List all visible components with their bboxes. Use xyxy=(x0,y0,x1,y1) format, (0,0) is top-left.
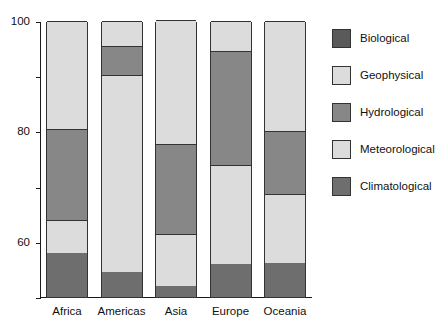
legend-swatch-icon xyxy=(332,177,351,196)
legend-item-meteorological[interactable]: Meteorological xyxy=(332,131,440,168)
bar-segment-climatological[interactable] xyxy=(265,263,305,298)
bar-segment-geophysical[interactable] xyxy=(211,21,251,51)
x-tick-label: Oceania xyxy=(264,306,307,318)
bar-segment-hydrological[interactable] xyxy=(47,129,87,220)
bar-stack xyxy=(210,22,252,298)
bar-stack xyxy=(101,22,143,298)
bar-segment-climatological[interactable] xyxy=(211,264,251,297)
bar-segment-meteorological[interactable] xyxy=(47,220,87,253)
bar-column-africa[interactable]: Africa xyxy=(46,22,88,298)
bar-stack xyxy=(155,22,197,298)
bar-segment-meteorological[interactable] xyxy=(156,234,196,286)
legend-swatch-icon xyxy=(332,66,351,85)
bar-segment-geophysical[interactable] xyxy=(47,21,87,129)
bar-column-asia[interactable]: Asia xyxy=(155,22,197,298)
bar-column-oceania[interactable]: Oceania xyxy=(264,22,306,298)
bar-segment-hydrological[interactable] xyxy=(102,46,142,75)
legend-item-geophysical[interactable]: Geophysical xyxy=(332,57,440,94)
stacked-bar-chart-figure: 020406080100 AfricaAmericasAsiaEuropeOce… xyxy=(0,0,443,336)
bar-segment-climatological[interactable] xyxy=(47,253,87,297)
legend-label: Hydrological xyxy=(360,107,423,119)
legend-label: Meteorological xyxy=(360,144,435,156)
legend-label: Geophysical xyxy=(360,70,423,82)
bar-segment-hydrological[interactable] xyxy=(265,131,305,193)
bar-segment-meteorological[interactable] xyxy=(265,194,305,263)
bar-segment-climatological[interactable] xyxy=(102,272,142,297)
y-tick-label: 60 xyxy=(17,237,30,249)
legend-item-climatological[interactable]: Climatological xyxy=(332,168,440,205)
bar-segment-geophysical[interactable] xyxy=(265,21,305,131)
plot-area: 020406080100 AfricaAmericasAsiaEuropeOce… xyxy=(40,22,310,298)
bar-column-americas[interactable]: Americas xyxy=(101,22,143,298)
x-tick-label: Europe xyxy=(212,306,249,318)
legend-item-hydrological[interactable]: Hydrological xyxy=(332,94,440,131)
y-tick-label: 100 xyxy=(11,16,30,28)
bar-segment-hydrological[interactable] xyxy=(156,144,196,234)
bar-segment-hydrological[interactable] xyxy=(211,51,251,164)
legend-label: Climatological xyxy=(360,181,432,193)
legend-swatch-icon xyxy=(332,29,351,48)
bar-segment-meteorological[interactable] xyxy=(102,75,142,272)
bar-group: AfricaAmericasAsiaEuropeOceania xyxy=(40,22,310,298)
x-tick-label: Africa xyxy=(52,306,81,318)
legend-swatch-icon xyxy=(332,140,351,159)
x-tick-label: Americas xyxy=(98,306,146,318)
bar-column-europe[interactable]: Europe xyxy=(210,22,252,298)
x-tick-label: Asia xyxy=(165,306,187,318)
bar-stack xyxy=(264,22,306,298)
y-tick-label: 80 xyxy=(17,127,30,139)
legend-swatch-icon xyxy=(332,103,351,122)
y-tick-mark: 0 xyxy=(36,298,40,299)
bar-stack xyxy=(46,22,88,298)
bar-segment-geophysical[interactable] xyxy=(102,21,142,46)
legend: BiologicalGeophysicalHydrologicalMeteoro… xyxy=(332,20,440,205)
legend-label: Biological xyxy=(360,33,409,45)
bar-segment-climatological[interactable] xyxy=(156,286,196,297)
bar-segment-geophysical[interactable] xyxy=(156,20,196,144)
legend-item-biological[interactable]: Biological xyxy=(332,20,440,57)
bar-segment-meteorological[interactable] xyxy=(211,165,251,264)
